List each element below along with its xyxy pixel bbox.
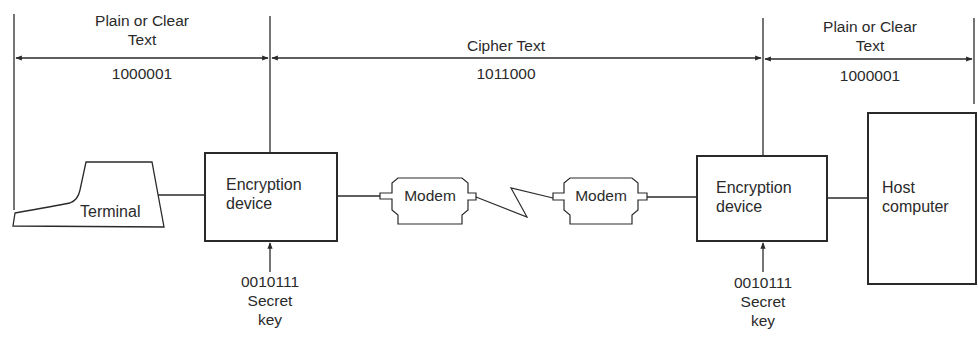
plain-text-left-bits: 1000001 bbox=[92, 64, 192, 83]
secret-key-right-line1: Secret bbox=[703, 292, 823, 311]
host-line1: Host bbox=[882, 178, 949, 197]
secret-key-left-line1: Secret bbox=[210, 291, 330, 310]
terminal-label: Terminal bbox=[80, 202, 140, 221]
encryption-right-line1: Encryption bbox=[716, 178, 792, 197]
plain-text-left-title-line1: Plain or Clear bbox=[72, 11, 212, 30]
host-computer-label: Host computer bbox=[882, 178, 949, 216]
plain-text-left-title-line2: Text bbox=[72, 30, 212, 49]
communication-link-icon bbox=[476, 188, 553, 217]
encryption-left-line2: device bbox=[226, 194, 302, 213]
secret-key-right-line2: key bbox=[703, 311, 823, 330]
host-line2: computer bbox=[882, 197, 949, 216]
plain-text-right-title-line2: Text bbox=[800, 36, 940, 55]
cipher-text-bits: 1011000 bbox=[456, 64, 556, 83]
plain-text-left-title: Plain or Clear Text bbox=[72, 11, 212, 49]
plain-text-right-title: Plain or Clear Text bbox=[800, 17, 940, 55]
modem-left-label: Modem bbox=[398, 187, 462, 205]
modem-right-label: Modem bbox=[570, 187, 632, 205]
encryption-left-line1: Encryption bbox=[226, 175, 302, 194]
encryption-device-right-label: Encryption device bbox=[716, 178, 792, 216]
secret-key-right: 0010111 Secret key bbox=[703, 273, 823, 330]
encryption-device-left-label: Encryption device bbox=[226, 175, 302, 213]
encryption-right-line2: device bbox=[716, 197, 792, 216]
secret-key-left-bits: 0010111 bbox=[210, 272, 330, 291]
secret-key-right-bits: 0010111 bbox=[703, 273, 823, 292]
secret-key-left: 0010111 Secret key bbox=[210, 272, 330, 329]
plain-text-right-title-line1: Plain or Clear bbox=[800, 17, 940, 36]
cipher-text-title: Cipher Text bbox=[436, 36, 576, 55]
plain-text-right-bits: 1000001 bbox=[820, 66, 920, 85]
secret-key-left-line2: key bbox=[210, 310, 330, 329]
